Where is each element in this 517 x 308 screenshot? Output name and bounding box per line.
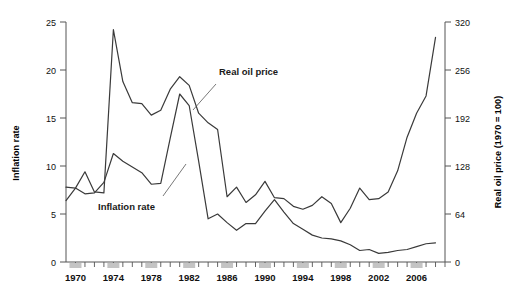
y-axis-right-ticks [445, 22, 451, 262]
chart-figure: Inflation rate Real oil price (1970 = 10… [0, 0, 517, 308]
y-tick-label-left: 15 [46, 114, 56, 124]
y-axis-left-tick-labels: 0510152025 [46, 18, 56, 268]
y-tick-label-left: 10 [46, 162, 56, 172]
y-tick-label-left: 20 [46, 66, 56, 76]
x-tick-label: 1990 [254, 272, 275, 283]
y-tick-label-right: 128 [455, 162, 470, 172]
x-tick-label: 2002 [368, 272, 389, 283]
annotation-real-oil-price: Real oil price [219, 66, 278, 77]
x-year-marker [145, 263, 157, 268]
annotation-leader-real-oil-price [193, 84, 216, 110]
y-tick-label-right: 64 [455, 210, 465, 220]
y-tick-label-right: 256 [455, 66, 470, 76]
y-tick-label-right: 320 [455, 18, 470, 28]
x-year-marker [183, 263, 195, 268]
x-year-marker [69, 263, 81, 268]
y-tick-label-right: 192 [455, 114, 470, 124]
x-tick-label: 1978 [141, 272, 162, 283]
y-tick-label-left: 25 [46, 18, 56, 28]
annotation-leader-inflation-rate [163, 164, 186, 196]
x-year-marker [107, 263, 119, 268]
x-tick-label: 1994 [292, 272, 314, 283]
x-tick-label: 1974 [103, 272, 125, 283]
y-axis-left-ticks [60, 22, 66, 262]
x-tick-label: 1982 [179, 272, 200, 283]
y-axis-right-tick-labels: 064128192256320 [455, 18, 470, 268]
y-tick-label-left: 0 [51, 258, 56, 268]
chart-plot-area: 0510152025 064128192256320 1970197419781… [0, 0, 517, 308]
y-tick-label-left: 5 [51, 210, 56, 220]
x-year-marker [259, 263, 271, 268]
x-year-marker [297, 263, 309, 268]
x-year-marker [373, 263, 385, 268]
y-tick-label-right: 0 [455, 258, 460, 268]
x-tick-label: 1986 [217, 272, 238, 283]
annotation-inflation-rate: Inflation rate [98, 201, 155, 212]
series-line-inflation-rate [66, 94, 436, 253]
x-year-marker [221, 263, 233, 268]
x-year-marker [335, 263, 347, 268]
x-axis-tick-labels: 1970197419781982198619901994199820022006 [65, 272, 427, 283]
x-tick-label: 2006 [406, 272, 427, 283]
x-year-marker [411, 263, 423, 268]
x-tick-label: 1970 [65, 272, 86, 283]
series-line-real-oil-price [66, 30, 436, 223]
x-tick-label: 1998 [330, 272, 351, 283]
